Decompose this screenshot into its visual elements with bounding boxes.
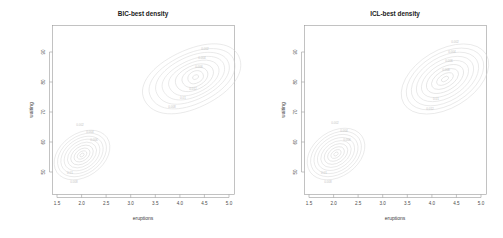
contour-label: 0.002 xyxy=(331,121,339,125)
contour-label: 0.008 xyxy=(442,68,450,72)
panel-icl-title: ICL-best density xyxy=(370,10,420,18)
contour-label: 0.006 xyxy=(90,138,98,142)
x-tick-label: 4.5 xyxy=(201,201,208,206)
contour-label: 0.004 xyxy=(448,50,456,54)
y-tick-label: 90 xyxy=(293,49,298,55)
y-tick-label: 70 xyxy=(41,109,46,115)
panel-icl-y-axis: 50 60 70 80 90 waiting xyxy=(280,49,305,175)
figure-container: BIC-best density 0.002 0.004 xyxy=(0,0,503,238)
panel-bic-svg: BIC-best density 0.002 0.004 xyxy=(0,0,252,238)
contour-label: 0.008 xyxy=(70,180,78,184)
contour-label: 0.01 xyxy=(67,171,73,175)
y-tick-label: 50 xyxy=(41,169,46,175)
x-tick-label: 3.0 xyxy=(379,201,386,206)
panel-icl-contour-cluster-high: 0.002 0.004 0.006 0.008 0.01 0.012 xyxy=(388,29,500,128)
x-tick-label: 3.0 xyxy=(128,201,135,206)
panel-icl-svg: ICL-best density 0.002 0.004 xyxy=(252,0,503,238)
panel-bic-contour-cluster-high: 0.002 0.004 0.006 0.012 0.01 0.008 xyxy=(133,30,252,128)
panel-icl-x-axis-label: eruptions xyxy=(384,215,405,221)
contour-label: 0.002 xyxy=(76,123,84,127)
x-tick-label: 1.5 xyxy=(305,201,312,206)
x-tick-label: 3.5 xyxy=(152,201,159,206)
contour-label: 0.01 xyxy=(180,96,186,100)
panel-bic-contour-cluster-low: 0.002 0.004 0.006 0.01 0.008 xyxy=(45,120,120,190)
y-tick-label: 80 xyxy=(293,79,298,85)
contour-label: 0.004 xyxy=(340,129,348,133)
panel-bic-x-axis-label: eruptions xyxy=(133,215,154,221)
y-tick-label: 60 xyxy=(293,139,298,145)
x-tick-label: 5.0 xyxy=(477,201,484,206)
contour-label: 0.01 xyxy=(321,171,327,175)
contour-label: 0.01 xyxy=(433,97,439,101)
contour-label: 0.004 xyxy=(86,130,94,134)
panel-icl: ICL-best density 0.002 0.004 xyxy=(252,0,503,238)
x-tick-label: 2.5 xyxy=(354,201,361,206)
contour-label: 0.006 xyxy=(195,65,203,69)
panel-bic: BIC-best density 0.002 0.004 xyxy=(0,0,252,238)
x-tick-label: 4.0 xyxy=(177,201,184,206)
panel-icl-contour-cluster-low: 0.002 0.004 0.006 0.01 0.008 xyxy=(297,118,374,191)
panel-bic-x-axis: 1.5 2.0 2.5 3.0 3.5 4.0 4.5 5.0 eruption… xyxy=(54,195,233,222)
y-tick-label: 50 xyxy=(293,169,298,175)
panel-bic-y-axis-label: waiting xyxy=(28,102,34,118)
panel-icl-y-axis-label: waiting xyxy=(280,102,286,118)
y-tick-label: 90 xyxy=(41,49,46,55)
x-tick-label: 2.0 xyxy=(330,201,337,206)
x-tick-label: 1.5 xyxy=(54,201,61,206)
x-tick-label: 4.5 xyxy=(453,201,460,206)
panel-icl-plot-frame xyxy=(304,26,486,195)
y-tick-label: 70 xyxy=(293,109,298,115)
y-tick-label: 80 xyxy=(41,79,46,85)
panel-bic-title: BIC-best density xyxy=(118,10,169,18)
y-tick-label: 60 xyxy=(41,139,46,145)
x-tick-label: 3.5 xyxy=(404,201,411,206)
x-tick-label: 2.0 xyxy=(78,201,85,206)
contour-label: 0.012 xyxy=(426,107,434,111)
contour-label: 0.006 xyxy=(343,138,351,142)
contour-label: 0.002 xyxy=(201,47,209,51)
panel-icl-x-axis: 1.5 2.0 2.5 3.0 3.5 4.0 4.5 5.0 eruption… xyxy=(305,195,484,222)
x-tick-label: 2.5 xyxy=(103,201,110,206)
contour-label: 0.008 xyxy=(168,105,176,109)
x-tick-label: 4.0 xyxy=(428,201,435,206)
contour-label: 0.012 xyxy=(189,87,197,91)
contour-label: 0.008 xyxy=(324,180,332,184)
contour-label: 0.004 xyxy=(198,56,206,60)
contour-label: 0.002 xyxy=(451,40,459,44)
x-tick-label: 5.0 xyxy=(226,201,233,206)
panel-bic-y-axis: 50 60 70 80 90 waiting xyxy=(28,49,53,175)
contour-label: 0.006 xyxy=(445,59,453,63)
